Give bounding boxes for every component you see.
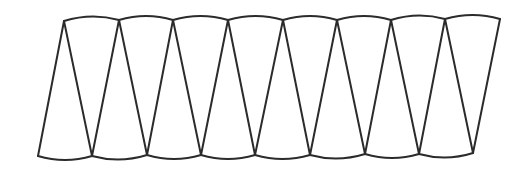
- bottom-arc-segment: [38, 156, 92, 160]
- bottom-arc-segment: [92, 155, 147, 160]
- bottom-arc-segment: [419, 153, 473, 158]
- top-arc-segment: [391, 15, 445, 20]
- top-arc-segment: [337, 16, 391, 20]
- bottom-arc-segment: [365, 154, 419, 158]
- zigzag-lines: [38, 19, 500, 156]
- zigzag-polyline: [38, 19, 500, 156]
- bottom-arc-segment: [201, 155, 255, 159]
- bottom-arc-segment: [255, 155, 310, 159]
- top-arc-segment: [173, 16, 228, 20]
- top-arc-segment: [445, 15, 500, 19]
- triangle-strip-diagram: [0, 0, 521, 185]
- top-arc-segment: [283, 16, 337, 20]
- top-arc-segment: [228, 16, 283, 20]
- bottom-arc-segment: [310, 154, 365, 159]
- top-arc-segment: [119, 16, 173, 20]
- bottom-arc-segment: [147, 155, 201, 159]
- top-arc-segment: [64, 16, 119, 21]
- diagram-canvas: [0, 0, 521, 185]
